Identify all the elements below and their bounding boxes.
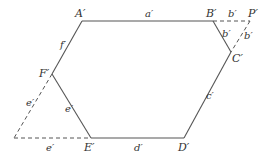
edge-label: a′ — [145, 8, 154, 19]
edge-label: e′ — [26, 97, 35, 108]
hexagon-diagram: a′b′c′d′e′f′b′b′e′e′A′B′P′C′D′E′F′ — [0, 0, 267, 162]
edge-label: c′ — [206, 90, 215, 101]
vertex-label-e: E′ — [83, 141, 95, 154]
vertex-label-a: A′ — [74, 7, 86, 20]
edge-label: b′ — [222, 28, 231, 39]
vertex-label-p: P′ — [247, 7, 258, 20]
vertex-label-f: F′ — [38, 67, 50, 80]
diagram-svg: a′b′c′d′e′f′b′b′e′e′A′B′P′C′D′E′F′ — [0, 0, 267, 162]
edge-label: b′ — [228, 8, 237, 19]
vertex-label-c: C′ — [232, 52, 243, 65]
vertex-label-b: B′ — [205, 7, 217, 20]
edge-label: f′ — [59, 39, 67, 50]
edge-label: b′ — [244, 30, 253, 41]
edge-label: d′ — [134, 142, 143, 153]
edge-label: e′ — [65, 103, 74, 114]
solid-edge-fa — [52, 21, 82, 74]
edge-label: e′ — [46, 142, 55, 153]
vertex-label-d: D′ — [177, 141, 190, 154]
